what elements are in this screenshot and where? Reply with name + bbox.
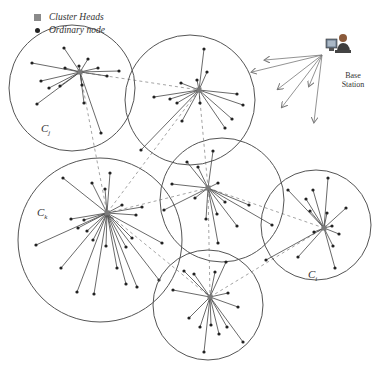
member-link [49, 72, 80, 88]
base-station-broadcast-arrows [252, 55, 322, 122]
ordinary-node [47, 86, 50, 89]
ordinary-node [195, 78, 198, 81]
ordinary-node [204, 217, 207, 220]
ordinary-node [196, 165, 199, 168]
ordinary-node [226, 291, 229, 294]
ordinary-node [103, 187, 106, 190]
cluster-head [78, 70, 83, 75]
cluster-label-ci: Ci [308, 268, 317, 283]
ordinary-node [34, 243, 37, 246]
member-link [107, 213, 126, 284]
ordinary-node [63, 66, 66, 69]
member-link [210, 297, 238, 307]
ordinary-node [192, 272, 195, 275]
ordinary-node [59, 266, 62, 269]
ordinary-node [117, 69, 120, 72]
cluster-label-ck-sub: k [44, 213, 47, 221]
ordinary-node [105, 74, 108, 77]
ordinary-node [91, 238, 94, 241]
ordinary-node [179, 81, 182, 84]
ordinary-node [86, 57, 89, 60]
ordinary-node-dot-icon [35, 28, 40, 33]
ordinary-node [75, 290, 78, 293]
ordinary-node [76, 226, 79, 229]
member-link [324, 178, 328, 228]
ordinary-node [171, 288, 174, 291]
cluster-boundary-circle [125, 35, 255, 165]
cluster-label-ci-sub: i [315, 275, 317, 283]
cluster-label-cj-sub: j [48, 129, 50, 137]
member-link [324, 228, 335, 268]
cluster-head [206, 186, 211, 191]
ordinary-node [69, 217, 72, 220]
cluster-c6 [153, 250, 263, 360]
ordinary-node [82, 218, 85, 221]
ordinary-node [223, 200, 226, 203]
ordinary-node [92, 292, 95, 295]
base-station-label-line1: Base [335, 71, 371, 80]
ordinary-node [264, 258, 267, 261]
ordinary-node [286, 188, 289, 191]
ordinary-node [326, 176, 329, 179]
ordinary-node [216, 181, 219, 184]
member-link [210, 297, 243, 342]
base-station-label-line2: Station [335, 80, 371, 89]
member-link [208, 188, 272, 225]
member-link [210, 297, 227, 327]
member-link [324, 208, 346, 228]
cluster-head [322, 226, 327, 231]
member-link [154, 90, 199, 97]
ordinary-node [202, 47, 205, 50]
member-link [206, 188, 208, 219]
legend-ordinary-node-label: Ordinary node [49, 24, 105, 37]
cluster-boundary-circle [9, 25, 135, 151]
ordinary-node [108, 171, 111, 174]
ordinary-node [124, 282, 127, 285]
cluster-head [208, 295, 213, 300]
ordinary-node [225, 325, 228, 328]
member-link [210, 272, 215, 297]
inter-cluster-dashed-link [107, 90, 199, 213]
ordinary-node [205, 70, 208, 73]
ordinary-node [82, 101, 85, 104]
ordinary-node [140, 205, 143, 208]
ordinary-node [333, 266, 336, 269]
cluster-label-ck: Ck [37, 206, 47, 221]
ordinary-node [224, 260, 227, 263]
ordinary-node [230, 117, 233, 120]
ordinary-node [213, 270, 216, 273]
ordinary-node [130, 236, 133, 239]
member-link [107, 213, 136, 215]
cluster-ck [18, 158, 182, 322]
ordinary-node [168, 97, 171, 100]
legend: Cluster Heads Ordinary node [34, 11, 105, 37]
cluster-cj [9, 25, 135, 151]
ordinary-node [180, 119, 183, 122]
ordinary-node [193, 196, 196, 199]
member-link [107, 213, 137, 287]
cluster-boundary-circle [153, 250, 263, 360]
ordinary-node [185, 160, 188, 163]
ordinary-node [198, 101, 201, 104]
cluster-head [105, 211, 110, 216]
ordinary-node [134, 213, 137, 216]
member-link [208, 151, 213, 188]
ordinary-node [115, 266, 118, 269]
ordinary-node [217, 332, 220, 335]
member-link [107, 213, 159, 280]
cluster-head [197, 88, 202, 93]
member-link [298, 228, 324, 257]
legend-ordinary-node: Ordinary node [34, 24, 105, 37]
ordinary-node [202, 350, 205, 353]
ordinary-node [241, 340, 244, 343]
ordinary-node [104, 244, 107, 247]
ordinary-node [182, 269, 185, 272]
ordinary-node [99, 131, 102, 134]
ordinary-node [80, 83, 83, 86]
member-link [32, 63, 80, 72]
ordinary-node [270, 223, 273, 226]
base-station-label: Base Station [335, 71, 371, 89]
ordinary-node [216, 241, 219, 244]
ordinary-node [325, 211, 328, 214]
ordinary-node [35, 102, 38, 105]
